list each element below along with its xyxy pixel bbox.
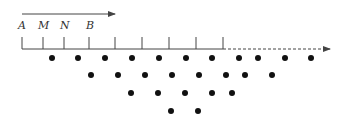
- point-labels: AMNB: [17, 19, 94, 32]
- dot-row-2: [242, 72, 248, 78]
- dot-row-1: [209, 55, 215, 61]
- dot-row-3: [155, 90, 161, 96]
- dot-row-1: [183, 55, 189, 61]
- point-label-m: M: [37, 19, 50, 32]
- dot-row-4: [168, 108, 174, 114]
- dot-row-1: [236, 55, 242, 61]
- dot-row-1: [255, 55, 261, 61]
- number-line-diagram: AMNB: [0, 0, 348, 120]
- dot-row-1: [129, 55, 135, 61]
- point-label-a: A: [17, 19, 26, 32]
- dot-row-1: [282, 55, 288, 61]
- dot-row-2: [196, 72, 202, 78]
- dot-row-3: [182, 90, 188, 96]
- point-label-b: B: [85, 19, 94, 32]
- number-line-axis: [22, 37, 330, 49]
- dot-row-1: [102, 55, 108, 61]
- dot-row-2: [88, 72, 94, 78]
- dot-row-2: [169, 72, 175, 78]
- dot-row-3: [209, 90, 215, 96]
- dot-row-4: [195, 108, 201, 114]
- dot-row-2: [142, 72, 148, 78]
- dot-row-1: [75, 55, 81, 61]
- dot-row-1: [308, 55, 314, 61]
- dot-row-2: [269, 72, 275, 78]
- dot-row-1: [49, 55, 55, 61]
- point-label-n: N: [59, 19, 70, 32]
- dot-row-3: [229, 90, 235, 96]
- dot-row-2: [115, 72, 121, 78]
- dot-row-3: [128, 90, 134, 96]
- dot-triangle: [49, 55, 314, 114]
- dot-row-2: [223, 72, 229, 78]
- dot-row-1: [156, 55, 162, 61]
